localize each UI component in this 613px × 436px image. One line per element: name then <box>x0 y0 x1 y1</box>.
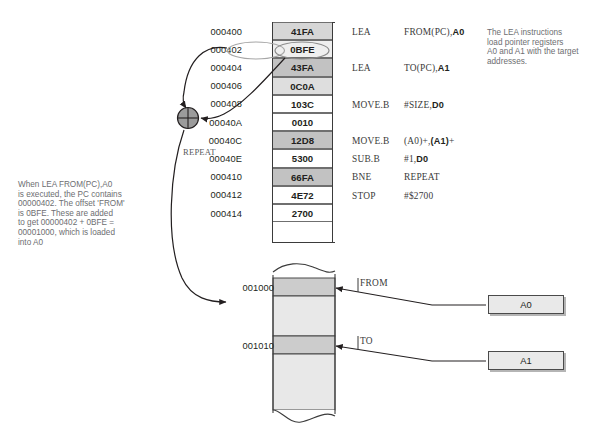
instruction-operand: REPEAT <box>404 172 440 182</box>
instruction-operand: #1, <box>404 154 416 164</box>
instruction-operand: FROM(PC), <box>404 27 452 37</box>
instruction-000410: BNEREPEAT <box>352 172 440 182</box>
instruction-operand-register: (A1) <box>431 136 449 146</box>
instruction-mnemonic: STOP <box>352 191 404 201</box>
table-bottom-rule <box>272 242 335 243</box>
note-right-lea-explanation: The LEA instructions load pointer regist… <box>487 28 605 66</box>
code-cell-000414: 2700 <box>273 204 332 222</box>
code-cell-00040A: 0010 <box>273 113 332 131</box>
code-cell-000410: 66FA <box>273 168 332 186</box>
code-listing-table: 41FA0BFE43FA0C0A103C001012D8530066FA4E72… <box>272 22 333 243</box>
diagram-canvas: When LEA FROM(PC),A0 is executed, the PC… <box>0 0 613 436</box>
instruction-00040E: SUB.B#1,D0 <box>352 154 428 164</box>
note-left-lea-explanation: When LEA FROM(PC),A0 is executed, the PC… <box>18 180 170 247</box>
code-cell-000402: 0BFE <box>273 40 332 58</box>
code-cell-000400: 41FA <box>273 22 332 40</box>
instruction-000408: MOVE.B#SIZE,D0 <box>352 100 444 110</box>
instruction-operand: TO(PC), <box>404 63 438 73</box>
instruction-operand: #$2700 <box>404 191 433 201</box>
memory-address-to: 001010 <box>218 341 274 351</box>
instruction-000400: LEAFROM(PC),A0 <box>352 27 464 37</box>
code-address-000408: 000408 <box>186 99 242 109</box>
memory-label-from: FROM <box>360 278 388 288</box>
instruction-mnemonic: MOVE.B <box>352 136 404 146</box>
code-cell-000412: 4E72 <box>273 186 332 204</box>
instruction-operand: (A0)+, <box>404 136 431 146</box>
instruction-operand-register: D0 <box>432 100 444 110</box>
instruction-operand-register: A1 <box>438 63 450 73</box>
instruction-mnemonic: LEA <box>352 27 404 37</box>
code-cell-00040E: 5300 <box>273 149 332 167</box>
code-address-000400: 000400 <box>186 27 242 37</box>
instruction-mnemonic: SUB.B <box>352 154 404 164</box>
code-address-000412: 000412 <box>186 190 242 200</box>
memory-label-to: TO <box>360 336 373 346</box>
code-address-00040C: 00040C <box>186 136 242 146</box>
instruction-mnemonic: MOVE.B <box>352 100 404 110</box>
code-address-000406: 000406 <box>186 81 242 91</box>
code-address-000410: 000410 <box>186 172 242 182</box>
memory-address-from: 001000 <box>218 283 274 293</box>
code-address-000402: 000402 <box>186 45 242 55</box>
instruction-operand: #SIZE, <box>404 100 432 110</box>
code-address-000414: 000414 <box>186 209 242 219</box>
code-address-000404: 000404 <box>186 63 242 73</box>
code-cell-00040C: 12D8 <box>273 131 332 149</box>
instruction-mnemonic: LEA <box>352 63 404 73</box>
instruction-mnemonic: BNE <box>352 172 404 182</box>
code-cell-000404: 43FA <box>273 58 332 76</box>
instruction-operand-register: D0 <box>416 154 428 164</box>
instruction-operand-register: A0 <box>452 27 464 37</box>
code-cell-000406: 0C0A <box>273 77 332 95</box>
register-box-a1: A1 <box>488 351 564 370</box>
register-box-a0: A0 <box>488 295 564 314</box>
connector-a1-to-to <box>336 346 486 361</box>
connector-a0-to-from <box>336 288 486 305</box>
code-address-00040E: 00040E <box>186 154 242 164</box>
code-cell-000408: 103C <box>273 95 332 113</box>
code-address-00040A: 00040A <box>186 118 242 128</box>
instruction-operand-suffix: + <box>449 136 455 146</box>
instruction-00040C: MOVE.B(A0)+,(A1)+ <box>352 136 455 146</box>
instruction-000404: LEATO(PC),A1 <box>352 63 450 73</box>
instruction-000412: STOP#$2700 <box>352 191 433 201</box>
